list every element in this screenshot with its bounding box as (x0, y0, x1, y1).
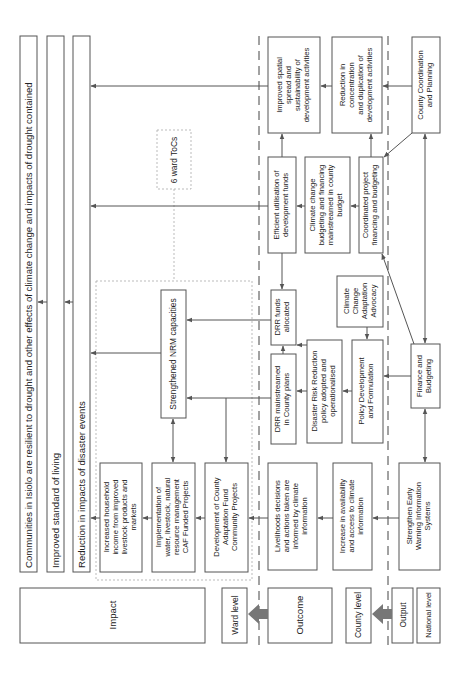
svg-text:Outcome: Outcome (294, 596, 305, 635)
svg-text:Output: Output (398, 602, 408, 628)
svg-text:6 ward ToCs: 6 ward ToCs (169, 137, 179, 183)
box-improved-spatial-spread: Improved spatialspread andsustainability… (268, 37, 320, 133)
legend-national-level: National level (417, 588, 440, 643)
ward-tocs-label: 6 ward ToCs (169, 137, 179, 183)
box-development-caf-projects: Development of CountyAdaptation FundComm… (205, 463, 248, 572)
box-finance-budgeting: Finance andBudgeting (411, 344, 440, 408)
box-climate-change-budgeting: Climate changebudgeting and financingmai… (305, 157, 350, 253)
box-reduction-concentration: Reduction inconcentrationand duplication… (332, 37, 382, 133)
svg-text:Ward level: Ward level (230, 595, 240, 634)
svg-text:Strengthened NRM capacities: Strengthened NRM capacities (168, 298, 178, 409)
svg-text:Implementation ofwater, livest: Implementation ofwater, livestock, natur… (154, 477, 190, 557)
box-drr-funds-allocated: DRR fundsallocated (271, 290, 296, 345)
svg-text:Finance andBudgeting: Finance andBudgeting (415, 355, 433, 397)
legend-ward-level: Ward level (222, 588, 247, 643)
arrow-finance-to-coordinated (382, 254, 414, 344)
box-drr-mainstreamed: DRR mainstreamedin County plans (271, 354, 296, 444)
legend-county-level: County level (346, 588, 371, 643)
svg-text:Communities in Isiolo are resi: Communities in Isiolo are resilient to d… (23, 82, 34, 568)
impact-standard-of-living-bar: Improved standard of living (47, 36, 64, 572)
big-arrow-output-to-county (372, 604, 392, 624)
legend-output: Output (392, 588, 413, 643)
svg-text:National level: National level (424, 592, 433, 638)
svg-text:Impact: Impact (107, 600, 118, 629)
box-strengthened-nrm: Strengthened NRM capacities (161, 290, 186, 418)
box-climate-change-adaptation-advocacy: ClimateChangeAdaptationAdvocacy (337, 276, 383, 327)
svg-text:Efficient utilisation ofdevelo: Efficient utilisation ofdevelopment fund… (272, 170, 290, 240)
box-early-warning-systems: Strengthen EarlyWarning InformationSyste… (399, 463, 440, 570)
box-efficient-utilisation: Efficient utilisation ofdevelopment fund… (268, 157, 296, 253)
box-household-income: Increased householdincome from improvedl… (100, 463, 142, 572)
impact-disaster-reduction-bar: Reduction in impacts of disaster events (73, 36, 90, 572)
box-county-coordination: County Coordinationand Planning (412, 37, 440, 133)
impact-goal-bar: Communities in Isiolo are resilient to d… (20, 36, 37, 572)
box-climate-information-access: Increase in availabilityand access to cl… (333, 463, 372, 570)
svg-text:DRR mainstreamedin County plan: DRR mainstreamedin County plans (273, 366, 291, 433)
svg-text:DRR fundsallocated: DRR fundsallocated (273, 298, 291, 335)
svg-text:Coordinated projectfinancing a: Coordinated projectfinancing and budgeti… (361, 165, 379, 246)
box-coordinated-project-financing: Coordinated projectfinancing and budgeti… (359, 157, 383, 253)
svg-text:County level: County level (353, 592, 363, 638)
box-implementation-projects: Implementation ofwater, livestock, natur… (152, 463, 195, 572)
legend-outcome: Outcome (268, 588, 332, 643)
theory-of-change-diagram: 6 ward ToCs Communities in Isiolo are re… (0, 0, 460, 674)
legend-impact: Impact (20, 588, 205, 643)
svg-text:Policy Developmentand Formulat: Policy Developmentand Formulation (357, 357, 375, 425)
svg-text:Improved standard of living: Improved standard of living (50, 453, 61, 568)
box-policy-development: Policy Developmentand Formulation (352, 340, 383, 443)
svg-text:Reduction in impacts of disast: Reduction in impacts of disaster events (76, 401, 87, 568)
svg-text:ClimateChangeAdaptationAdvocac: ClimateChangeAdaptationAdvocacy (342, 283, 378, 319)
big-arrow-outcome-to-ward (248, 604, 268, 624)
box-livelihoods-decisions: Livelihoods decisionsand actions taken a… (268, 463, 317, 570)
box-drr-policy-adopted: Disaster Risk Reductionpolicy adopted an… (307, 340, 342, 443)
